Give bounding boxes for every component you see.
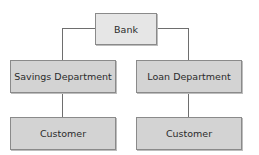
connector-savings-customer <box>62 93 63 117</box>
connector-loan-customer <box>188 93 189 117</box>
node-bank: Bank <box>95 13 157 45</box>
node-customer-label: Customer <box>166 128 212 139</box>
node-loan-department: Loan Department <box>136 60 242 93</box>
connector-to-loan <box>188 28 189 60</box>
connector-bank-left <box>62 28 95 29</box>
node-customer-loan: Customer <box>136 117 242 150</box>
node-bank-label: Bank <box>114 24 138 35</box>
connector-to-savings <box>62 28 63 60</box>
node-customer-label: Customer <box>40 128 86 139</box>
node-loan-label: Loan Department <box>147 71 230 82</box>
node-savings-department: Savings Department <box>10 60 116 93</box>
node-customer-savings: Customer <box>10 117 116 150</box>
connector-bank-right <box>157 28 189 29</box>
node-savings-label: Savings Department <box>14 71 112 82</box>
